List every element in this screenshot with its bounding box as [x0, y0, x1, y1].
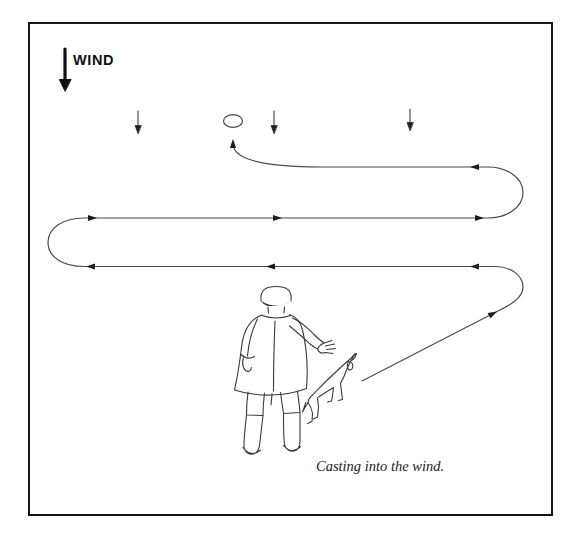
wind-small-arrow-2	[271, 111, 277, 134]
dog-hind-legs	[308, 398, 319, 424]
sweep2-arrowhead-mid	[273, 215, 282, 221]
cast-arrowhead	[488, 309, 499, 319]
dog-back	[313, 355, 355, 395]
sweep3-arrowhead	[470, 164, 479, 170]
handler-neck	[268, 307, 285, 313]
wind-small-arrow-3	[407, 109, 413, 131]
sweep1-arrowhead-right	[470, 263, 479, 269]
sweep2-arrowhead-right	[475, 215, 484, 221]
handler-collar	[262, 316, 291, 319]
finish-arrowhead	[230, 139, 236, 148]
handler-cap-band	[261, 301, 291, 306]
figure-caption: Casting into the wind.	[316, 458, 444, 475]
wind-direction-arrow	[59, 49, 70, 91]
handler-figure	[235, 287, 336, 455]
handler-hand	[318, 341, 336, 354]
handler-left-boot	[243, 415, 263, 454]
sweep2-arrowhead-left	[88, 215, 97, 221]
handler-coat	[235, 315, 308, 396]
dog-head	[352, 354, 357, 361]
handler-right-boot	[284, 413, 301, 452]
quartering-path-line	[48, 144, 523, 381]
dog-belly	[319, 388, 334, 398]
handler-right-arm	[290, 318, 325, 349]
dog-figure	[303, 354, 357, 424]
wind-label: WIND	[73, 53, 114, 68]
sweep1-arrowhead-left	[86, 263, 95, 269]
dog-front-legs	[328, 384, 343, 403]
handler-cap	[261, 287, 291, 302]
handler-left-arm	[241, 319, 258, 371]
wind-indicator-arrows	[135, 109, 413, 134]
wind-small-arrow-1	[135, 111, 141, 134]
sweep1-arrowhead-mid	[266, 263, 275, 269]
diagram-art	[0, 0, 574, 538]
target-oval	[224, 115, 243, 128]
diagram-page: WIND Casting into the wind.	[0, 0, 574, 538]
